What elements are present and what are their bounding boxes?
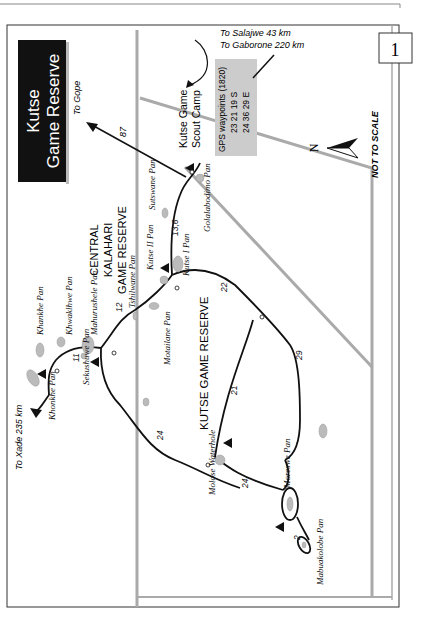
- distance-molose-west: 24: [155, 430, 165, 441]
- title-line-2: Game Reserve: [44, 54, 63, 168]
- distance-tshilwane: 12: [114, 302, 124, 312]
- pan-molose: Molose Waterhole: [207, 430, 217, 496]
- pan-khonkhe: Khonkhe Pan: [47, 371, 57, 421]
- not-to-scale-label: NOT TO SCALE: [370, 110, 380, 178]
- label-to-xade: To Xade 235 km: [14, 404, 24, 470]
- distance-east-loop: 29: [294, 350, 304, 361]
- pan-motailane: Motailane Pan: [162, 311, 172, 366]
- pan-tshilwane: Tshilwane Pan: [127, 255, 137, 308]
- pan-sekushuwe: Sekushuwe Pan: [81, 328, 91, 385]
- gps-title: GPS waypoints (1820): [217, 67, 227, 152]
- pan-kutse-i: Kutse I Pan: [181, 233, 191, 277]
- gps-latitude: 23 21 19 S: [229, 92, 239, 133]
- distance-gope: 87: [118, 126, 128, 137]
- map-page: Kutse Game Reserve 1 To Gope 87 CENTRAL …: [0, 0, 426, 617]
- pan-golalabodimo: Golalabodimo Pan: [202, 163, 212, 232]
- pan-khankhe: Khankhe Pan: [35, 286, 45, 336]
- distance-kutse-junction: 22: [219, 282, 229, 293]
- gps-longitude: 24 36 29 E: [241, 92, 251, 133]
- distance-cross-road: 21: [229, 385, 239, 396]
- distance-sutswane: 13,6: [170, 219, 180, 236]
- pan-sutswane: Sutswane Pan: [147, 159, 157, 210]
- pan-mabuakolobe: Mabuakolobe Pan: [315, 518, 325, 586]
- region-label-2: KALAHARI: [102, 223, 114, 277]
- north-label: N: [307, 143, 321, 152]
- label-to-salajwe: To Salajwe 43 km: [220, 28, 291, 38]
- kutse-map: Kutse Game Reserve 1 To Gope 87 CENTRAL …: [0, 0, 426, 617]
- distance-mabuakolobe: 2: [292, 535, 302, 541]
- distance-molose-east: 24: [240, 478, 250, 489]
- title-line-1: Kutse: [24, 89, 43, 132]
- label-to-gope: To Gope: [72, 81, 82, 115]
- pan-mahurushele: Mahurushele Pan: [89, 270, 99, 336]
- label-to-gaborone: To Gaborone 220 km: [220, 40, 305, 50]
- reserve-label: KUTSE GAME RESERVE: [198, 296, 210, 430]
- distance-sekushuwe: 11: [71, 353, 81, 362]
- pan-khwaklhwe: Khwaklhwe Pan: [64, 276, 74, 336]
- camp-label-1: Kutse Game: [177, 89, 189, 148]
- page-number: 1: [391, 40, 400, 60]
- pan-moreswe: Moreswe Pan: [282, 438, 292, 489]
- camp-label-2: Scout Camp: [190, 90, 202, 148]
- pan-kutse-ii: Kutse II Pan: [145, 224, 155, 271]
- region-label-1: CENTRAL: [88, 224, 100, 275]
